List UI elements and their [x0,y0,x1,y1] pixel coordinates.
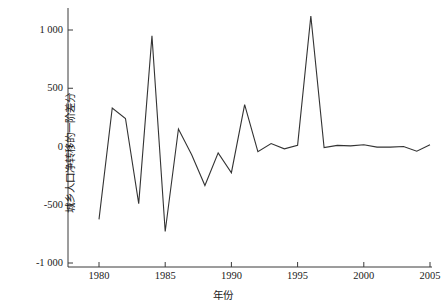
x-tick-label: 1990 [221,271,242,282]
x-tick-label: 2005 [420,271,441,282]
y-tick-label: 500 [47,83,63,94]
y-tick-label: -1 000 [36,258,63,269]
x-tick-label: 1995 [287,271,308,282]
y-tick-label: -500 [44,200,63,211]
axes [68,8,432,267]
x-tick-label: 1985 [155,271,176,282]
x-tick-label: 1980 [89,271,110,282]
x-tick-label: 2000 [353,271,374,282]
y-axis-title: 城乡人口净转移的一阶差分 [62,93,77,213]
y-tick-label: 1 000 [39,25,63,36]
x-axis-title: 年份 [0,287,445,302]
chart-figure: -1 000-50005001 000 19801985199019952000… [0,0,445,306]
data-series-line [99,16,430,232]
tick-marks [68,30,430,267]
